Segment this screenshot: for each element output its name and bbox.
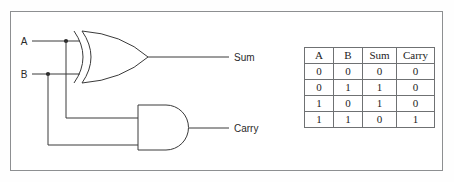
cell-carry: 1 <box>397 112 435 128</box>
output-label-carry: Carry <box>234 123 258 134</box>
cell-b: 1 <box>334 112 363 128</box>
table-header-carry: Carry <box>397 48 435 64</box>
truth-table: A B Sum Carry 0 0 0 0 0 1 1 0 1 0 1 <box>304 47 435 128</box>
figure-root: A B Sum Carry A B <box>0 0 454 182</box>
table-header-sum: Sum <box>363 48 397 64</box>
output-label-sum: Sum <box>234 52 255 63</box>
input-label-a: A <box>21 36 28 47</box>
cell-carry: 0 <box>397 64 435 80</box>
table-header-b: B <box>334 48 363 64</box>
cell-b: 0 <box>334 96 363 112</box>
table-row: 0 0 0 0 <box>305 64 435 80</box>
table-header-row: A B Sum Carry <box>305 48 435 64</box>
cell-carry: 0 <box>397 96 435 112</box>
xor-gate-body <box>82 31 148 83</box>
cell-carry: 0 <box>397 80 435 96</box>
wire-b-to-and <box>48 74 138 145</box>
cell-sum: 1 <box>363 80 397 96</box>
xor-gate-outer-arc <box>74 31 83 83</box>
input-label-b: B <box>21 69 28 80</box>
cell-a: 1 <box>305 96 334 112</box>
and-gate-body <box>138 105 189 150</box>
cell-b: 0 <box>334 64 363 80</box>
cell-a: 1 <box>305 112 334 128</box>
cell-sum: 0 <box>363 64 397 80</box>
cell-a: 0 <box>305 64 334 80</box>
cell-sum: 0 <box>363 112 397 128</box>
table-row: 0 1 1 0 <box>305 80 435 96</box>
cell-sum: 1 <box>363 96 397 112</box>
table-header-a: A <box>305 48 334 64</box>
cell-b: 1 <box>334 80 363 96</box>
cell-a: 0 <box>305 80 334 96</box>
table-row: 1 1 0 1 <box>305 112 435 128</box>
table-row: 1 0 1 0 <box>305 96 435 112</box>
